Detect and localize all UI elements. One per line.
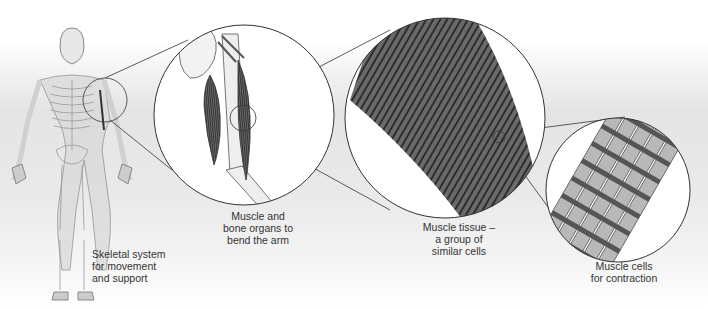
label-muscle-cells: Muscle cells for contraction [574, 260, 674, 284]
label-line: for movement [92, 260, 166, 272]
label-line: for contraction [574, 272, 674, 284]
label-line: a group of [400, 233, 518, 245]
label-line: and support [92, 272, 166, 284]
label-line: bend the arm [198, 234, 318, 246]
label-muscle-tissue: Muscle tissue – a group of similar cells [400, 221, 518, 257]
label-line: Muscle and [198, 210, 318, 222]
label-line: Muscle tissue – [400, 221, 518, 233]
diagram-canvas: Skeletal system for movement and support… [0, 0, 708, 309]
arm-circle [154, 25, 334, 232]
label-line: bone organs to [198, 222, 318, 234]
label-muscle-bone: Muscle and bone organs to bend the arm [198, 210, 318, 246]
tissue-circle [345, 10, 545, 230]
label-line: Muscle cells [574, 260, 674, 272]
label-line: Skeletal system [92, 248, 166, 260]
label-line: similar cells [400, 245, 518, 257]
label-skeletal-system: Skeletal system for movement and support [92, 248, 166, 284]
